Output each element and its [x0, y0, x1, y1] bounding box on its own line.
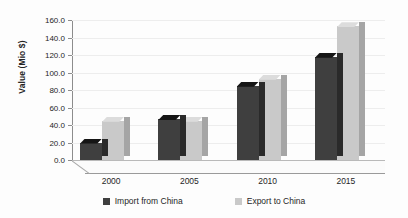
legend-swatch-import [103, 198, 110, 205]
bar-side-face [180, 115, 186, 156]
gridline [72, 20, 385, 21]
bar-import-2000[interactable] [80, 143, 102, 161]
y-tick-mark [68, 143, 72, 144]
legend-item-import[interactable]: Import from China [103, 196, 183, 206]
y-tick-label: 140.0 [45, 33, 65, 42]
bar-front-face [80, 143, 102, 161]
y-tick-mark [68, 20, 72, 21]
floor-left-edge [72, 160, 91, 174]
bar-side-face [124, 117, 130, 156]
y-tick-mark [68, 73, 72, 74]
bar-side-face [281, 75, 287, 156]
bar-side-face [202, 117, 208, 156]
x-axis-label-2010: 2010 [238, 176, 298, 186]
x-axis-label-2015: 2015 [316, 176, 376, 186]
y-tick-label: 0.0 [54, 156, 65, 165]
bar-side-face [102, 139, 108, 157]
bar-front-face [237, 86, 259, 160]
floor-front-edge [85, 173, 385, 174]
axis-baseline [72, 160, 385, 161]
y-tick-label: 120.0 [45, 51, 65, 60]
y-tick-mark [68, 108, 72, 109]
y-tick-mark [68, 55, 72, 56]
y-axis-title: Value (Mio $) [17, 7, 27, 127]
legend-label-import: Import from China [115, 196, 183, 206]
bar-front-face [158, 119, 180, 160]
plot-area: 0.020.040.060.080.0100.0120.0140.0160.0 [72, 20, 385, 160]
floor-face [72, 160, 385, 174]
y-tick-label: 60.0 [49, 103, 65, 112]
y-tick-mark [68, 125, 72, 126]
y-tick-label: 80.0 [49, 86, 65, 95]
y-tick-mark [68, 90, 72, 91]
bar-side-face [359, 22, 365, 156]
x-axis-label-2000: 2000 [81, 176, 141, 186]
bar-import-2005[interactable] [158, 119, 180, 160]
y-tick-mark [68, 160, 72, 161]
bar-front-face [315, 57, 337, 160]
bar-side-face [259, 82, 265, 156]
y-tick-label: 100.0 [45, 68, 65, 77]
bar-import-2010[interactable] [237, 86, 259, 160]
bar-chart: Value (Mio $) 0.020.040.060.080.0100.012… [0, 0, 408, 218]
legend-swatch-export [235, 198, 242, 205]
legend-label-export: Export to China [247, 196, 306, 206]
y-tick-label: 40.0 [49, 121, 65, 130]
bar-import-2015[interactable] [315, 57, 337, 160]
bar-side-face [337, 53, 343, 156]
x-axis-label-2005: 2005 [159, 176, 219, 186]
chart-legend: Import from China Export to China [0, 196, 408, 206]
y-tick-label: 160.0 [45, 16, 65, 25]
floor-right-edge [365, 160, 385, 175]
y-tick-label: 20.0 [49, 138, 65, 147]
chart-floor-3d [72, 160, 385, 174]
y-tick-mark [68, 38, 72, 39]
legend-item-export[interactable]: Export to China [235, 196, 306, 206]
